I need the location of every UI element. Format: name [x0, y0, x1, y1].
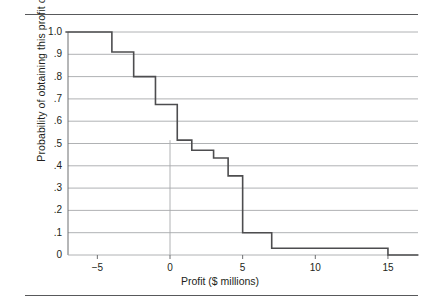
y-axis-label-wrap: Probability of obtaining this profit or …: [31, 0, 49, 184]
x-axis-label: Profit ($ millions): [130, 275, 310, 287]
x-tick-label: 15: [368, 263, 408, 273]
x-tick-label: −5: [77, 263, 117, 273]
x-tick-label: 5: [223, 263, 263, 273]
y-axis-label: Probability of obtaining this profit or …: [35, 0, 47, 162]
chart-plot-area: [0, 0, 435, 306]
y-tick-label: .3: [32, 183, 62, 193]
x-tick-label: 10: [295, 263, 335, 273]
figure-container: 0.1.2.3.4.5.6.7.8.91.0 −5051015 Probabil…: [0, 0, 435, 306]
x-tick-marks-group: [97, 255, 388, 259]
y-tick-label: .2: [32, 205, 62, 215]
x-tick-label: 0: [150, 263, 190, 273]
y-tick-label: .1: [32, 228, 62, 238]
y-tick-label: 0: [32, 250, 62, 260]
